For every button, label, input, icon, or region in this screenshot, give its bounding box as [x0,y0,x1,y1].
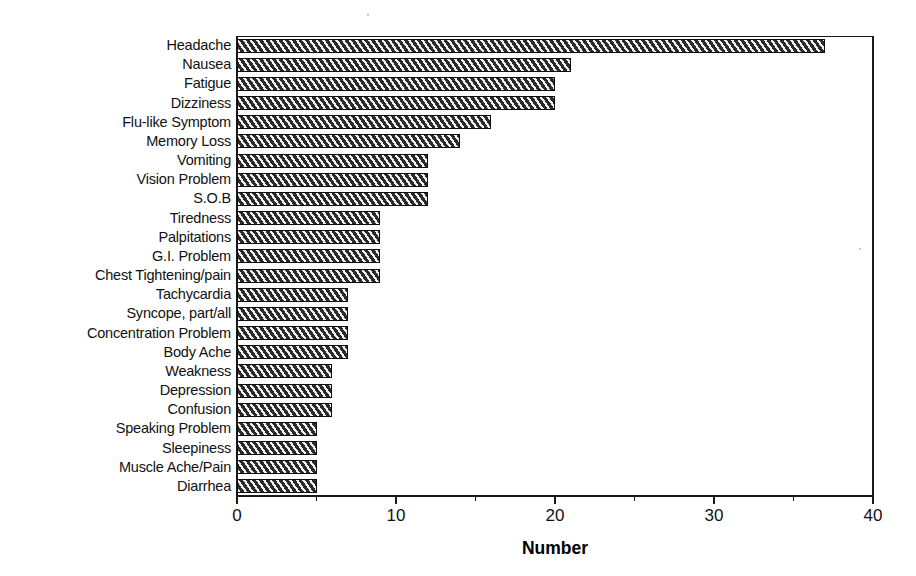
bar [237,422,317,436]
category-label: Flu-like Symptom [0,115,231,129]
bar [237,96,555,110]
category-label: Dizziness [0,96,231,110]
x-tick-minor [475,496,476,501]
x-tick-major [236,496,238,504]
bar [237,307,348,321]
bar [237,77,555,91]
bar [237,58,571,72]
category-label: Memory Loss [0,134,231,148]
bar [237,345,348,359]
bar [237,39,825,53]
plot-top-spine [236,36,874,37]
x-tick-label: 20 [525,506,585,526]
bar [237,441,317,455]
category-label: Muscle Ache/Pain [0,460,231,474]
category-label: Syncope, part/all [0,306,231,320]
category-label: Headache [0,38,231,52]
x-tick-major [395,496,397,504]
x-tick-label: 10 [366,506,426,526]
category-label: S.O.B [0,191,231,205]
category-label: G.I. Problem [0,249,231,263]
category-label: Tiredness [0,211,231,225]
x-tick-label: 0 [207,506,267,526]
category-label: Vomiting [0,153,231,167]
category-label: Weakness [0,364,231,378]
plot-area: 010203040 [237,36,873,496]
category-label: Sleepiness [0,441,231,455]
x-tick-major [713,496,715,504]
category-label: Depression [0,383,231,397]
category-label: Diarrhea [0,479,231,493]
x-tick-label: 40 [843,506,903,526]
category-label: Tachycardia [0,287,231,301]
category-label: Nausea [0,57,231,71]
scan-speck [367,14,369,16]
category-label: Vision Problem [0,172,231,186]
bar [237,269,380,283]
bar [237,249,380,263]
plot-right-spine [872,36,874,496]
category-label: Confusion [0,402,231,416]
bar [237,384,332,398]
x-tick-minor [793,496,794,501]
bar [237,115,491,129]
scan-speck [859,248,861,250]
bar [237,230,380,244]
bar [237,192,428,206]
bar [237,479,317,493]
category-label: Fatigue [0,76,231,90]
bar [237,211,380,225]
bar [237,403,332,417]
bar [237,134,460,148]
category-label: Chest Tightening/pain [0,268,231,282]
x-axis-title: Number [237,538,873,559]
bar [237,173,428,187]
bar [237,154,428,168]
bar [237,460,317,474]
bar [237,326,348,340]
x-tick-major [554,496,556,504]
x-tick-minor [634,496,635,501]
category-label: Concentration Problem [0,326,231,340]
x-tick-major [872,496,874,504]
x-tick-minor [316,496,317,501]
bar [237,364,332,378]
bar [237,288,348,302]
category-label: Body Ache [0,345,231,359]
category-axis: HeadacheNauseaFatigueDizzinessFlu-like S… [0,36,231,496]
category-label: Speaking Problem [0,421,231,435]
category-label: Palpitations [0,230,231,244]
bar-chart: HeadacheNauseaFatigueDizzinessFlu-like S… [0,0,916,576]
x-tick-label: 30 [684,506,744,526]
